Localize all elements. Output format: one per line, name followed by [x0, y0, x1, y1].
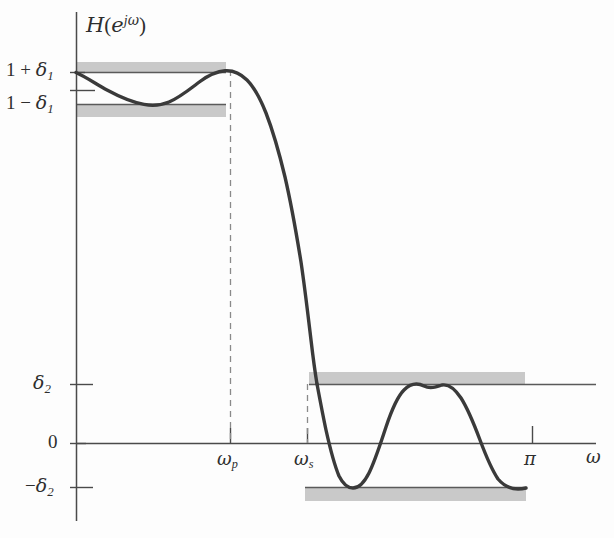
delta-subscript-one: 1 [47, 101, 53, 116]
one-plus-text: 1 + [6, 59, 31, 80]
omega-glyph: ω [294, 448, 309, 469]
xtick-label-pi: π [524, 450, 536, 468]
ytick-label-zero: 0 [48, 432, 58, 451]
delta-glyph: δ [36, 474, 47, 496]
y-axis-title-base: e [111, 13, 123, 37]
y-axis-title-close: ) [139, 13, 146, 37]
y-axis-title-func: H [86, 13, 104, 37]
stopband-ripple-curve [317, 384, 526, 489]
x-axis-title: ω [586, 448, 601, 466]
ytick-label-delta2: δ2 [33, 373, 51, 396]
omega-glyph: ω [586, 446, 601, 467]
y-axis-title-exp-omega: ω [128, 12, 139, 28]
passband-and-transition-curve [76, 71, 317, 384]
delta-subscript-two: 2 [47, 484, 53, 499]
ytick-label-one-minus-delta1: 1 − δ1 [6, 93, 54, 116]
omega-subscript-s: s [309, 457, 314, 471]
filter-specification-figure: H(ejω) 1 + δ1 1 − δ1 δ2 0 −δ2 ωp ωs π ω [0, 0, 614, 538]
delta-subscript-two: 2 [44, 381, 50, 396]
pi-glyph: π [524, 448, 536, 469]
ytick-label-one-plus-delta1: 1 + δ1 [6, 60, 54, 83]
omega-glyph: ω [217, 448, 232, 469]
omega-subscript-p: p [232, 457, 238, 471]
xtick-label-omega-p: ωp [217, 450, 238, 471]
delta-subscript-one: 1 [47, 68, 53, 83]
delta-glyph: δ [36, 58, 47, 80]
delta-glyph: δ [36, 91, 47, 113]
ytick-label-negative-delta2: −δ2 [25, 476, 54, 499]
xtick-label-omega-s: ωs [294, 450, 313, 471]
one-minus-text: 1 − [6, 92, 31, 113]
delta-glyph: δ [33, 371, 44, 393]
minus-sign: − [25, 475, 36, 496]
y-axis-title: H(ejω) [86, 14, 146, 36]
